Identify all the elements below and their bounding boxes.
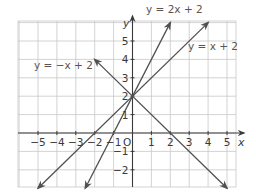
y-tick-label: 3 <box>122 72 129 84</box>
y-tick-label: −2 <box>113 164 128 176</box>
x-axis-label: x <box>237 136 245 149</box>
label-y-neg-x-plus-2: y = −x + 2 <box>34 59 93 71</box>
x-tick-label: 3 <box>186 136 193 148</box>
y-tick-label: 1 <box>122 109 129 121</box>
origin-label: O <box>123 136 131 148</box>
y-axis-label: y <box>122 17 130 30</box>
x-tick-label: −4 <box>49 136 65 148</box>
x-tick-label: −2 <box>87 136 102 148</box>
x-tick-label: −3 <box>68 136 83 148</box>
x-tick-label: 4 <box>205 136 212 148</box>
equation-labels: y = 2x + 2 y = x + 2 y = −x + 2 <box>34 3 238 71</box>
y-tick-label: 2 <box>122 90 129 102</box>
label-y-2x-plus-2: y = 2x + 2 <box>146 3 203 15</box>
x-tick-label: 2 <box>167 136 174 148</box>
tick-labels: −5−4−3−2−11234554321−1−2 <box>30 35 230 176</box>
label-y-x-plus-2: y = x + 2 <box>188 40 238 52</box>
x-tick-label: 1 <box>148 136 155 148</box>
y-tick-label: 4 <box>122 53 129 65</box>
x-tick-label: −5 <box>30 136 45 148</box>
linear-functions-graph: −5−4−3−2−11234554321−1−2 y = 2x + 2 y = … <box>0 0 256 196</box>
x-tick-label: 5 <box>224 136 231 148</box>
y-tick-label: 5 <box>122 35 129 47</box>
